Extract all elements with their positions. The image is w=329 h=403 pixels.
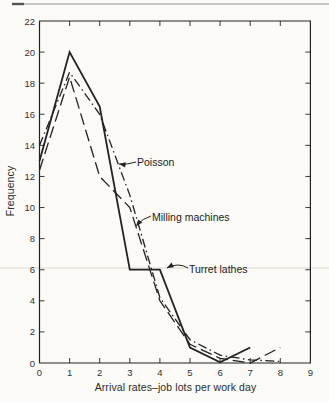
- y-tick-label: 18: [24, 78, 35, 89]
- chart-figure: 01234567890246810121416182022 Frequency …: [0, 0, 329, 403]
- y-tick-label: 20: [24, 47, 35, 58]
- x-tick-labels: 0123456789: [37, 367, 313, 378]
- x-axis-title: Arrival rates–job lots per work day: [40, 381, 311, 393]
- x-tick-label: 5: [187, 367, 192, 378]
- milling-machines-label: Milling machines: [152, 211, 230, 223]
- x-tick-label: 9: [308, 367, 313, 378]
- x-tick-label: 1: [67, 367, 72, 378]
- y-ticks: [40, 52, 311, 332]
- x-tick-label: 3: [127, 367, 132, 378]
- y-tick-label: 6: [30, 264, 35, 275]
- y-tick-label: 16: [24, 109, 35, 120]
- y-tick-label: 8: [30, 233, 35, 244]
- poisson-arrowhead: [119, 162, 126, 167]
- line-chart-canvas: 01234567890246810121416182022: [0, 0, 329, 403]
- turret-lathes-label: Turret lathes: [189, 263, 248, 275]
- y-axis-title: Frequency: [4, 159, 16, 223]
- series-turret-lathes-line: [40, 52, 251, 362]
- x-ticks: [70, 21, 281, 363]
- y-tick-label: 0: [30, 358, 35, 369]
- turret-lathes-arrowhead: [167, 263, 174, 268]
- x-tick-label: 2: [97, 367, 102, 378]
- y-tick-label: 4: [30, 295, 35, 306]
- x-tick-label: 7: [248, 367, 253, 378]
- x-tick-label: 6: [217, 367, 222, 378]
- y-tick-labels: 0246810121416182022: [24, 16, 35, 369]
- y-tick-label: 10: [24, 202, 35, 213]
- y-tick-label: 22: [24, 16, 35, 27]
- poisson-label: Poisson: [137, 156, 174, 168]
- y-tick-label: 14: [24, 140, 35, 151]
- x-tick-label: 0: [37, 367, 42, 378]
- x-tick-label: 8: [278, 367, 283, 378]
- x-tick-label: 4: [157, 367, 162, 378]
- y-tick-label: 12: [24, 171, 35, 182]
- y-tick-label: 2: [30, 326, 35, 337]
